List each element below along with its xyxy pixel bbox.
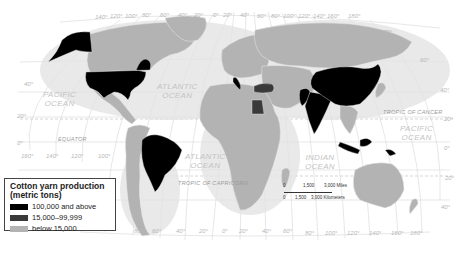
legend-swatch-high xyxy=(10,204,28,210)
lon-label: 140° xyxy=(313,13,325,19)
lon-label: 180° xyxy=(348,13,360,19)
lon-label: 120° xyxy=(71,153,83,159)
lon-label: 20° xyxy=(223,12,232,18)
lat-label: 80° xyxy=(383,29,392,35)
lat-label: 20° xyxy=(444,116,453,122)
legend: Cotton yarn production (metric tons) 100… xyxy=(4,178,116,231)
lon-label: 180° xyxy=(410,230,422,236)
lon-label: 80° xyxy=(271,13,280,19)
lat-label: 40° xyxy=(441,204,450,210)
lon-label: 60° xyxy=(160,12,169,18)
ocean-line: PACIFIC xyxy=(43,90,76,99)
lat-label: 20° xyxy=(17,113,26,119)
scale-line xyxy=(284,192,332,193)
lon-label: 60° xyxy=(257,13,266,19)
lon-label: 140° xyxy=(46,153,58,159)
lon-label: 60° xyxy=(283,228,292,234)
lon-label: 80° xyxy=(134,228,143,234)
lat-label: 20° xyxy=(445,175,454,181)
scale-km-0: 0 xyxy=(283,195,286,200)
legend-label: 15,000–99,999 xyxy=(32,213,82,222)
lon-label: 20° xyxy=(194,12,203,18)
ocean-line: ATLANTIC xyxy=(185,152,225,161)
legend-label: below 15,000 xyxy=(32,224,77,233)
legend-item: below 15,000 xyxy=(10,224,110,233)
lon-label: 120° xyxy=(298,13,310,19)
ocean-label-atlantic-north: ATLANTICOCEAN xyxy=(157,82,197,100)
lon-label: 80° xyxy=(305,230,314,236)
tropic-of-cancer-label: TROPIC OF CANCER xyxy=(383,109,442,115)
ocean-label-pacific-south: PACIFICOCEAN xyxy=(400,124,433,142)
legend-item: 15,000–99,999 xyxy=(10,213,110,222)
ocean-line: OCEAN xyxy=(157,91,197,100)
lon-label: 100° xyxy=(98,153,110,159)
lon-label: 40° xyxy=(178,12,187,18)
lon-label: 100° xyxy=(125,13,137,19)
lon-label: 100° xyxy=(283,13,295,19)
legend-label: 100,000 and above xyxy=(32,202,96,211)
scale-miles-mid: 1,500 xyxy=(303,183,314,188)
scale-bar: 0 1,500 3,000 Miles 0 1,500 3,000 Kilome… xyxy=(283,183,363,205)
lon-label: 100° xyxy=(325,230,337,236)
scale-km-mid: 1,500 xyxy=(295,195,306,200)
lon-label: 0° xyxy=(213,12,219,18)
scale-miles-0: 0 xyxy=(283,183,286,188)
lon-label: 160° xyxy=(21,153,33,159)
lon-label: 140° xyxy=(95,14,107,20)
lon-label: 60° xyxy=(152,228,161,234)
ocean-line: OCEAN xyxy=(400,133,433,142)
lon-label: 40° xyxy=(262,228,271,234)
lon-label: 120° xyxy=(110,13,122,19)
ocean-label-pacific-north: PACIFICOCEAN xyxy=(43,90,76,108)
legend-swatch-medium xyxy=(10,215,28,221)
land-below-15000 xyxy=(87,16,418,236)
ocean-line: OCEAN xyxy=(43,99,76,108)
lon-label: 40° xyxy=(240,12,249,18)
ocean-line: INDIAN xyxy=(305,153,335,162)
lat-label: 40° xyxy=(440,87,449,93)
ocean-label-atlantic-south: ATLANTICOCEAN xyxy=(185,152,225,170)
ocean-line: ATLANTIC xyxy=(157,82,197,91)
scale-miles-end: 3,000 Miles xyxy=(324,183,347,188)
lon-label: 160° xyxy=(391,230,403,236)
lon-label: 40° xyxy=(176,228,185,234)
legend-item: 100,000 and above xyxy=(10,202,110,211)
ocean-line: OCEAN xyxy=(305,162,335,171)
lon-label: 140° xyxy=(369,230,381,236)
legend-subtitle: (metric tons) xyxy=(10,191,110,200)
ocean-label-indian: INDIANOCEAN xyxy=(305,153,335,171)
ocean-line: PACIFIC xyxy=(400,124,433,133)
equator-label: EQUATOR xyxy=(58,136,87,142)
lat-label: 40° xyxy=(24,81,33,87)
scale-km-end: 3,000 Kilometers xyxy=(311,195,345,200)
lon-label: 20° xyxy=(239,228,248,234)
lat-label: 60° xyxy=(420,57,429,63)
legend-swatch-low xyxy=(10,226,28,232)
lon-label: 20° xyxy=(199,228,208,234)
lat-label: 0° xyxy=(444,145,450,151)
lon-label: 120° xyxy=(347,230,359,236)
lon-label: 80° xyxy=(142,12,151,18)
lon-label: 160° xyxy=(327,13,339,19)
lat-label: 0° xyxy=(17,140,23,146)
tropic-of-capricorn-label: TROPIC OF CAPRICORN xyxy=(178,180,248,186)
ocean-line: OCEAN xyxy=(185,161,225,170)
lon-label: 0° xyxy=(222,228,228,234)
